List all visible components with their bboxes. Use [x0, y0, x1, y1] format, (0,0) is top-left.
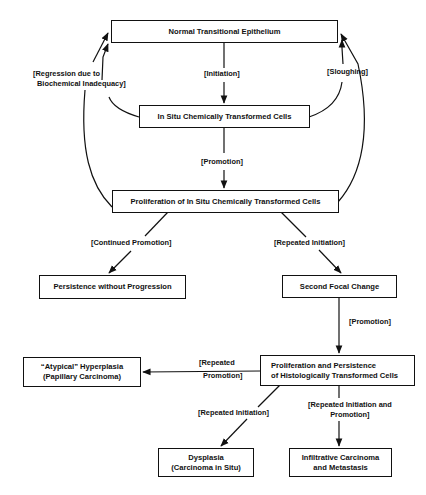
edge-label-line2: Promotion] — [199, 371, 242, 381]
node-second-focal-change: Second Focal Change — [282, 275, 397, 298]
node-infiltrative-carcinoma: Infiltrative Carcinoma and Metastasis — [289, 448, 392, 477]
node-proliferation-in-situ: Proliferation of In Situ Chemically Tran… — [112, 190, 339, 213]
edge-label-repeated-initiation-and-promotion: [Repeated Initiation and Promotion] — [308, 400, 392, 420]
node-label: In Situ Chemically Transformed Cells — [158, 112, 292, 122]
node-persistence-without-progression: Persistence without Progression — [39, 275, 186, 299]
node-normal-transitional-epithelium: Normal Transitional Epithelium — [111, 20, 338, 43]
node-label: Proliferation of In Situ Chemically Tran… — [131, 197, 321, 207]
node-label-line1: Proliferation and Persistence — [271, 361, 376, 371]
edge-label-continued-promotion: [Continued Promotion] — [91, 238, 171, 248]
node-label-line1: Infiltrative Carcinoma — [302, 453, 380, 463]
edge-label-line1: [Repeated Initiation and — [308, 400, 392, 410]
node-label: Persistence without Progression — [53, 282, 171, 292]
edge-label-line1: [Repeated — [199, 358, 242, 368]
node-label-line2: of Histologically Transformed Cells — [271, 371, 398, 381]
node-label-line2: and Metastasis — [313, 463, 367, 473]
node-label-line2: (Papillary Carcinoma) — [43, 372, 121, 382]
edge-label-sloughing: [Sloughing] — [327, 67, 368, 77]
node-label-line2: (Carcinoma in Situ) — [171, 463, 241, 473]
edge-label-promotion-2: [Promotion] — [349, 317, 391, 327]
node-dysplasia: Dysplasia (Carcinoma in Situ) — [158, 448, 254, 477]
node-proliferation-histological: Proliferation and Persistence of Histolo… — [260, 355, 415, 386]
edge-label-line2: Biochemical Inadequacy] — [33, 79, 126, 89]
edge-label-initiation: [Initiation] — [204, 69, 240, 79]
edge-label-regression: [Regression due to Biochemical Inadequac… — [33, 69, 126, 89]
edge-label-line1: [Regression due to — [33, 69, 126, 79]
edge-label-repeated-initiation-2: [Repeated Initiation] — [198, 408, 269, 418]
edge-label-repeated-promotion: [Repeated Promotion] — [199, 358, 242, 381]
node-label-line1: “Atypical” Hyperplasia — [41, 362, 123, 372]
node-label: Second Focal Change — [300, 282, 379, 292]
node-label: Normal Transitional Epithelium — [169, 27, 281, 37]
edge-label-line2: Promotion] — [308, 410, 392, 420]
edge-label-repeated-initiation-1: [Repeated Initiation] — [274, 238, 345, 248]
edge-label-promotion-1: [Promotion] — [201, 157, 243, 167]
node-label-line1: Dysplasia — [188, 453, 223, 463]
node-atypical-hyperplasia: “Atypical” Hyperplasia (Papillary Carcin… — [23, 357, 141, 387]
node-in-situ-transformed-cells: In Situ Chemically Transformed Cells — [139, 105, 310, 128]
